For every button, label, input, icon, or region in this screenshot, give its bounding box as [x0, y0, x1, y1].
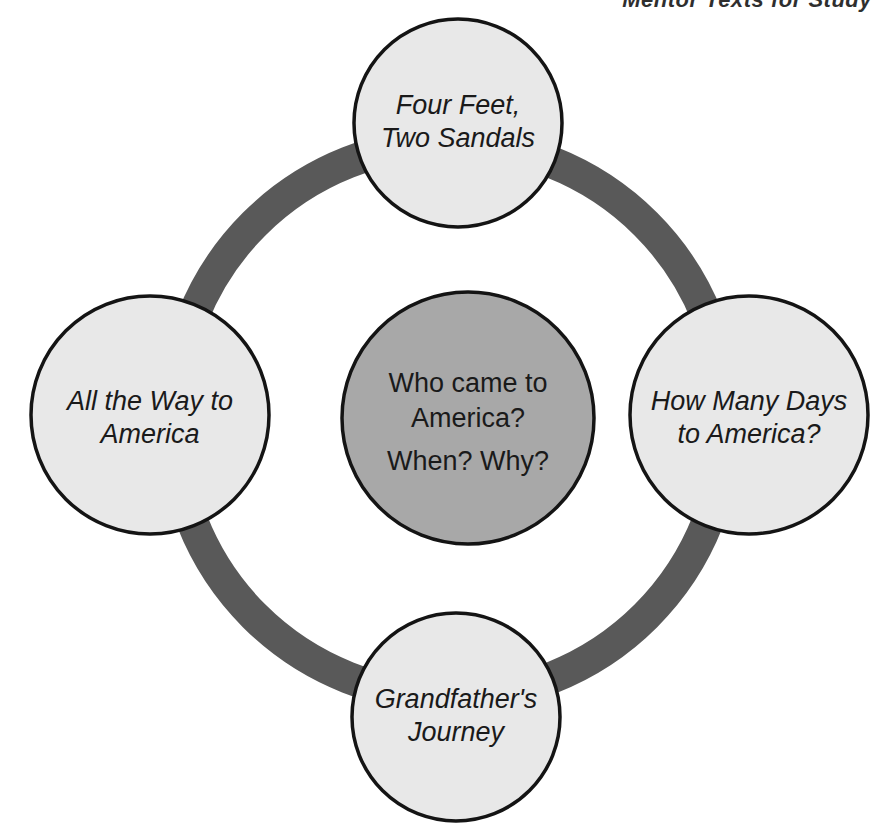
node-top[interactable]: Four Feet, Two Sandals: [354, 19, 562, 227]
node-right-label-line2: to America?: [677, 419, 820, 449]
center-node[interactable]: Who came to America? When? Why?: [342, 292, 594, 544]
concept-web-diagram: Four Feet, Two Sandals All the Way to Am…: [0, 0, 882, 830]
center-node-label-line2: America?: [411, 403, 525, 433]
node-top-label-line1: Four Feet,: [396, 90, 521, 120]
node-right-label-line1: How Many Days: [651, 386, 848, 416]
node-left[interactable]: All the Way to America: [31, 296, 269, 534]
node-left-label-line2: America: [98, 419, 199, 449]
node-left-label-line1: All the Way to: [65, 386, 233, 416]
node-top-label-line2: Two Sandals: [381, 123, 535, 153]
node-bottom-label-line1: Grandfather's: [375, 684, 538, 714]
center-node-label-line3: When? Why?: [387, 446, 549, 476]
diagram-canvas: Mentor Texts for Study Four Feet, Two Sa…: [0, 0, 882, 830]
center-node-label-line1: Who came to: [388, 368, 547, 398]
node-bottom-label-line2: Journey: [407, 717, 506, 747]
node-right[interactable]: How Many Days to America?: [630, 296, 868, 534]
node-bottom[interactable]: Grandfather's Journey: [352, 613, 560, 821]
